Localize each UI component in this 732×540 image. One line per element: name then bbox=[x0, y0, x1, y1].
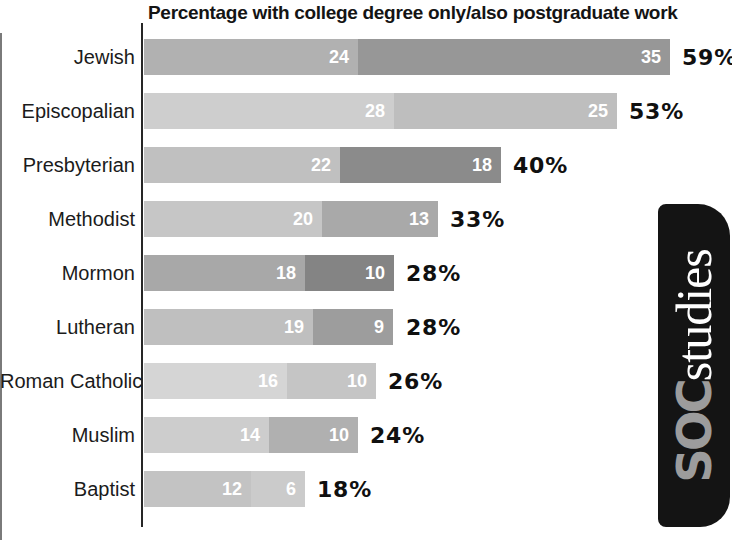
segment-value-label: 9 bbox=[374, 309, 393, 345]
total-percentage-label: 28% bbox=[406, 255, 461, 291]
total-percentage-label: 24% bbox=[370, 417, 425, 453]
bar-row: Baptist 12 6 18% bbox=[0, 471, 732, 507]
segment-value-label: 24 bbox=[329, 39, 358, 75]
bar-segment-college-only: 14 bbox=[144, 417, 269, 453]
bar-segment-postgraduate: 18 bbox=[340, 147, 501, 183]
segment-value-label: 18 bbox=[276, 255, 305, 291]
bar-segment-college-only: 24 bbox=[144, 39, 358, 75]
stacked-bar: 20 13 33% bbox=[144, 201, 438, 237]
bar-segment-postgraduate: 9 bbox=[313, 309, 393, 345]
stacked-bar: 18 10 28% bbox=[144, 255, 394, 291]
segment-value-label: 6 bbox=[286, 471, 305, 507]
stacked-bar: 24 35 59% bbox=[144, 39, 670, 75]
category-label: Presbyterian bbox=[0, 147, 135, 183]
total-percentage-label: 28% bbox=[406, 309, 461, 345]
segment-value-label: 35 bbox=[641, 39, 670, 75]
bar-row: Methodist 20 13 33% bbox=[0, 201, 732, 237]
category-label: Methodist bbox=[0, 201, 135, 237]
socstudies-logo-text: SOCstudies bbox=[669, 249, 719, 483]
logo-soc-text: SOC bbox=[666, 381, 722, 483]
bar-segment-postgraduate: 10 bbox=[269, 417, 358, 453]
stacked-bar: 14 10 24% bbox=[144, 417, 358, 453]
bar-segment-postgraduate: 10 bbox=[305, 255, 394, 291]
category-label: Roman Catholic bbox=[0, 363, 135, 399]
bar-segment-college-only: 28 bbox=[144, 93, 394, 129]
bar-row: Mormon 18 10 28% bbox=[0, 255, 732, 291]
category-label: Jewish bbox=[0, 39, 135, 75]
logo-studies-text: studies bbox=[666, 249, 722, 381]
stacked-bar: 22 18 40% bbox=[144, 147, 501, 183]
total-percentage-label: 18% bbox=[317, 471, 372, 507]
bar-row: Episcopalian 28 25 53% bbox=[0, 93, 732, 129]
stacked-bar: 28 25 53% bbox=[144, 93, 617, 129]
bar-segment-postgraduate: 6 bbox=[251, 471, 305, 507]
stacked-bar: 16 10 26% bbox=[144, 363, 376, 399]
segment-value-label: 19 bbox=[284, 309, 313, 345]
category-label: Episcopalian bbox=[0, 93, 135, 129]
segment-value-label: 18 bbox=[472, 147, 501, 183]
total-percentage-label: 40% bbox=[513, 147, 568, 183]
total-percentage-label: 26% bbox=[388, 363, 443, 399]
bar-row: Lutheran 19 9 28% bbox=[0, 309, 732, 345]
bar-segment-postgraduate: 25 bbox=[394, 93, 617, 129]
segment-value-label: 14 bbox=[240, 417, 269, 453]
total-percentage-label: 53% bbox=[629, 93, 684, 129]
bar-segment-college-only: 18 bbox=[144, 255, 305, 291]
category-label: Muslim bbox=[0, 417, 135, 453]
category-label: Lutheran bbox=[0, 309, 135, 345]
segment-value-label: 28 bbox=[365, 93, 394, 129]
category-label: Mormon bbox=[0, 255, 135, 291]
segment-value-label: 20 bbox=[293, 201, 322, 237]
bar-segment-postgraduate: 10 bbox=[287, 363, 376, 399]
segment-value-label: 10 bbox=[365, 255, 394, 291]
total-percentage-label: 33% bbox=[450, 201, 505, 237]
bar-segment-college-only: 16 bbox=[144, 363, 287, 399]
bar-segment-postgraduate: 35 bbox=[358, 39, 670, 75]
segment-value-label: 13 bbox=[409, 201, 438, 237]
bar-row: Muslim 14 10 24% bbox=[0, 417, 732, 453]
segment-value-label: 10 bbox=[329, 417, 358, 453]
bar-row: Presbyterian 22 18 40% bbox=[0, 147, 732, 183]
segment-value-label: 16 bbox=[258, 363, 287, 399]
stacked-bar: 12 6 18% bbox=[144, 471, 305, 507]
stacked-bar: 19 9 28% bbox=[144, 309, 393, 345]
bar-segment-college-only: 22 bbox=[144, 147, 340, 183]
bar-segment-college-only: 12 bbox=[144, 471, 251, 507]
bar-segment-college-only: 19 bbox=[144, 309, 313, 345]
segment-value-label: 12 bbox=[222, 471, 251, 507]
bar-segment-postgraduate: 13 bbox=[322, 201, 438, 237]
chart-title: Percentage with college degree only/also… bbox=[148, 2, 732, 24]
chart-canvas: Percentage with college degree only/also… bbox=[0, 0, 732, 540]
socstudies-logo: SOCstudies bbox=[658, 204, 730, 527]
category-label: Baptist bbox=[0, 471, 135, 507]
segment-value-label: 22 bbox=[311, 147, 340, 183]
total-percentage-label: 59% bbox=[682, 39, 732, 75]
segment-value-label: 25 bbox=[588, 93, 617, 129]
bar-row: Roman Catholic 16 10 26% bbox=[0, 363, 732, 399]
bar-row: Jewish 24 35 59% bbox=[0, 39, 732, 75]
bar-segment-college-only: 20 bbox=[144, 201, 322, 237]
segment-value-label: 10 bbox=[347, 363, 376, 399]
